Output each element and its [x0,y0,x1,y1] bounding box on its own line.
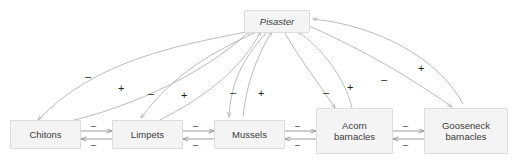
sign-gooseneck-barnacles-to-pisaster: + [418,63,424,74]
node-chitons-label: Chitons [29,129,61,141]
sign-mussels-to-pisaster: + [258,88,264,99]
sign-chitons-limpets-bottom: – [91,141,96,150]
sign-pisaster-to-chitons: – [85,71,91,82]
edge-mussels-to-pisaster [243,31,272,117]
sign-limpets-mussels-bottom: – [193,141,198,150]
node-mussels-label: Mussels [232,129,267,141]
node-limpets[interactable]: Limpets [112,120,183,149]
node-gooseneck-barnacles-label-line1: Gooseneck [442,120,490,132]
node-acorn-barnacles[interactable]: Acorn barnacles [316,108,393,154]
node-mussels[interactable]: Mussels [214,120,285,149]
edge-pisaster-to-mussels [229,33,266,117]
sign-pisaster-to-acorn-barnacles: – [323,87,329,98]
sign-chitons-limpets-top: – [91,122,96,131]
sign-acorn-gooseneck-bottom: – [403,141,408,150]
food-web-diagram: Pisaster Chitons Limpets Mussels Acorn b… [0,0,518,164]
edge-gooseneck-barnacles-to-pisaster [313,19,463,104]
sign-mussels-acorn-top: – [295,122,300,131]
sign-pisaster-to-gooseneck-barnacles: – [381,74,387,85]
node-gooseneck-barnacles[interactable]: Gooseneck barnacles [424,108,508,154]
sign-pisaster-to-limpets: – [148,88,154,99]
node-acorn-barnacles-label-line1: Acorn [342,120,367,132]
edge-limpets-to-pisaster [156,31,261,122]
sign-mussels-acorn-bottom: – [295,141,300,150]
node-gooseneck-barnacles-label-line2: barnacles [445,131,486,143]
node-acorn-barnacles-label-line2: barnacles [334,131,375,143]
node-pisaster-label: Pisaster [260,16,294,28]
sign-acorn-barnacles-to-pisaster: + [347,82,353,93]
edge-pisaster-to-gooseneck-barnacles [309,26,452,107]
sign-chitons-to-pisaster: + [118,83,124,94]
sign-limpets-to-pisaster: + [181,90,187,101]
sign-pisaster-to-mussels: – [230,87,236,98]
edge-pisaster-to-limpets [141,33,254,118]
sign-acorn-gooseneck-top: – [403,122,408,131]
node-chitons[interactable]: Chitons [10,120,81,149]
edge-pisaster-to-chitons [38,32,246,120]
sign-limpets-mussels-top: – [193,122,198,131]
edge-chitons-to-pisaster [48,30,251,126]
node-pisaster[interactable]: Pisaster [244,10,310,33]
node-limpets-label: Limpets [131,129,164,141]
